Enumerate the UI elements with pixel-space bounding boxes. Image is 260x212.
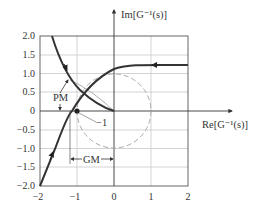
x-tick: 0	[112, 191, 117, 202]
x-tick-labels: −2 −1 0 1 2	[33, 191, 191, 202]
y-tick-labels: 2.0 1.5 1.0 0.5 0 −0.5 −1.0 −1.5 −2.0	[17, 30, 35, 191]
y-tick: 1.5	[23, 49, 36, 60]
x-tick: 2	[186, 191, 191, 202]
y-tick: −2.0	[17, 180, 35, 191]
pm-label: PM	[53, 92, 69, 103]
y-tick: −1.0	[17, 143, 35, 154]
x-tick: 1	[149, 191, 154, 202]
y-tick: −0.5	[17, 124, 35, 135]
y-tick: 1.0	[23, 68, 36, 79]
y-tick: −1.5	[17, 161, 35, 172]
y-tick: 0.5	[23, 86, 36, 97]
x-tick: −1	[70, 191, 81, 202]
minus-one-label: −1	[96, 117, 107, 128]
inverse-nyquist-plot: Im[G⁻¹(s)] Re[G⁻¹(s)] PM −1 GM 2.0 1.5 1…	[0, 0, 260, 212]
gm-label: GM	[83, 154, 101, 165]
im-axis-label: Im[G⁻¹(s)]	[121, 9, 167, 21]
minus-one-leader	[79, 113, 96, 122]
y-tick: 2.0	[23, 30, 36, 41]
re-axis-label: Re[G⁻¹(s)]	[202, 119, 248, 131]
x-tick: −2	[33, 191, 44, 202]
critical-point	[74, 108, 79, 113]
y-tick: 0	[30, 105, 35, 116]
